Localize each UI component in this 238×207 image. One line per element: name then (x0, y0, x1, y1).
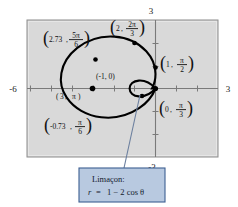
point-pi (90, 86, 96, 92)
svg-text:2: 2 (116, 24, 120, 33)
callout-title: Limaçon: (92, 174, 125, 184)
point-pi-3 (153, 86, 158, 91)
svg-text:π: π (78, 118, 82, 127)
svg-text:π: π (180, 56, 184, 65)
svg-text:,: , (65, 92, 67, 101)
svg-text:,: , (66, 35, 68, 44)
svg-text:,: , (171, 60, 173, 69)
x-axis-right-label: 3 (226, 84, 231, 94)
label-center-point: (-1, 0) (96, 72, 115, 81)
svg-text:,: , (121, 24, 123, 33)
svg-text:): ) (187, 98, 193, 119)
svg-text:=: = (96, 187, 101, 197)
svg-text:): ) (84, 28, 90, 49)
svg-text:5π: 5π (72, 31, 80, 40)
svg-text:3: 3 (60, 92, 64, 101)
point-pi-2 (153, 65, 158, 70)
point-5pi-6 (93, 57, 98, 62)
point-2pi-3 (132, 41, 137, 46)
svg-text:): ) (188, 53, 194, 74)
svg-text:6: 6 (74, 40, 78, 49)
y-axis-top-label: 3 (149, 6, 154, 16)
svg-text:π: π (179, 101, 183, 110)
svg-text:2.73: 2.73 (49, 35, 62, 44)
svg-text:): ) (86, 115, 92, 136)
svg-text:3: 3 (179, 110, 183, 119)
svg-text:6: 6 (78, 127, 82, 136)
callout-equation: r = 1 − 2 cos θ (88, 187, 144, 197)
svg-text:2π: 2π (128, 20, 136, 29)
svg-text:,: , (170, 105, 172, 114)
figure-page: 3 -3 -6 3 ( 2.73 , 5π 6 ) (0, 0, 238, 207)
svg-text:π: π (72, 92, 76, 101)
svg-text:,: , (70, 122, 72, 131)
svg-text:1: 1 (166, 60, 170, 69)
point-pi-6 (140, 94, 145, 99)
svg-text:3: 3 (130, 29, 134, 38)
svg-text:1 − 2 cos θ: 1 − 2 cos θ (107, 187, 144, 197)
limacon-figure: 3 -3 -6 3 ( 2.73 , 5π 6 ) (0, 0, 238, 207)
svg-text:2: 2 (180, 65, 184, 74)
x-axis-left-label: -6 (9, 84, 17, 94)
svg-text:0: 0 (165, 105, 169, 114)
svg-text:-0.73: -0.73 (50, 122, 66, 131)
svg-text:): ) (139, 17, 145, 38)
